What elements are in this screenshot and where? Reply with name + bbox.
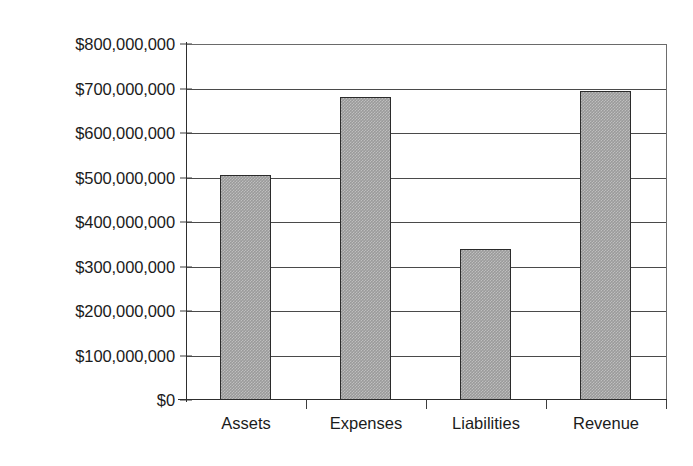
plot-area: [186, 44, 667, 400]
y-axis-tick-label: $700,000,000: [0, 80, 175, 97]
bar-chart: $800,000,000 $700,000,000 $600,000,000 $…: [0, 0, 693, 466]
bar-assets: [220, 175, 271, 400]
y-axis-tick-label: $0: [0, 392, 175, 409]
y-axis-tick-label: $800,000,000: [0, 36, 175, 53]
x-axis-tick-label-expenses: Expenses: [330, 415, 402, 432]
x-axis-category-tick: [306, 400, 307, 409]
x-axis-tick-label-liabilities: Liabilities: [452, 415, 520, 432]
x-axis-category-tick: [666, 400, 667, 409]
y-axis-tick-label: $300,000,000: [0, 258, 175, 275]
y-axis-tick-label: $200,000,000: [0, 303, 175, 320]
x-axis-tick-label-revenue: Revenue: [573, 415, 639, 432]
bar-revenue: [580, 91, 631, 400]
x-axis-tick-label-assets: Assets: [221, 415, 271, 432]
bar-series: [186, 44, 667, 400]
bar-liabilities: [460, 249, 511, 400]
y-axis-tick-label: $100,000,000: [0, 347, 175, 364]
y-axis-tick-label: $400,000,000: [0, 214, 175, 231]
y-axis-tick-label: $600,000,000: [0, 125, 175, 142]
x-axis-category-tick: [546, 400, 547, 409]
x-axis-tick-labels: Assets Expenses Liabilities Revenue: [186, 415, 667, 445]
x-axis-category-tick: [426, 400, 427, 409]
bar-expenses: [340, 97, 391, 400]
y-axis-tick-labels: $800,000,000 $700,000,000 $600,000,000 $…: [0, 0, 175, 466]
y-axis-tick-label: $500,000,000: [0, 169, 175, 186]
